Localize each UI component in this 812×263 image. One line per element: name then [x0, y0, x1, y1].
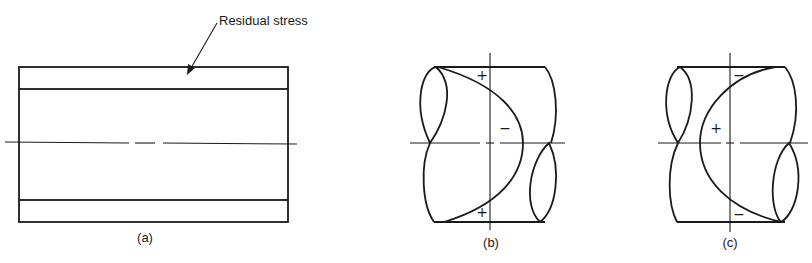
panel-c: − + − (c) [658, 53, 808, 250]
centerline-a [5, 142, 297, 144]
hatched-lobe-right-c [773, 143, 799, 222]
panel-a: Residual stress (a) [5, 13, 308, 245]
sign-middle-c: + [710, 120, 722, 136]
sign-bottom-c: − [733, 206, 745, 222]
hatched-lobe-left-c [666, 67, 692, 143]
left-contour-c [670, 143, 678, 222]
panel-b: + − + (b) [410, 53, 565, 250]
right-contour-b [545, 67, 556, 143]
sign-top-b: + [476, 67, 488, 83]
left-contour-b [424, 143, 434, 222]
hatched-lobe-right-b [530, 143, 556, 222]
residual-stress-figure: Residual stress (a) + − + (b) [0, 0, 812, 263]
residual-stress-label: Residual stress [219, 13, 308, 28]
residual-stress-layer-top [19, 67, 288, 89]
residual-stress-layer-bottom [19, 200, 288, 222]
sign-middle-b: − [499, 120, 511, 136]
sign-top-c: − [733, 67, 745, 83]
hatched-lobe-left-b [420, 67, 447, 143]
right-contour-c [785, 67, 796, 143]
stress-distribution-curve-b [438, 67, 523, 222]
caption-b: (b) [483, 235, 499, 250]
sign-bottom-b: + [476, 204, 488, 220]
caption-a: (a) [137, 230, 153, 245]
caption-c: (c) [722, 235, 737, 250]
stress-distribution-curve-c [700, 67, 781, 222]
